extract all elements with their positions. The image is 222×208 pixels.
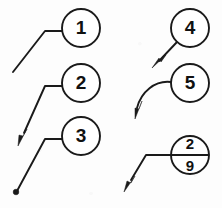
balloon-label-2: 2: [76, 72, 87, 93]
leader-line-6: [131, 155, 171, 180]
arrowhead-6: [124, 176, 135, 192]
leader-line-4: [159, 42, 177, 61]
figure-canvas: 1 2 3 4 5: [0, 0, 222, 208]
balloon-label-6-top: 2: [186, 135, 194, 152]
balloon-label-6-bottom: 9: [186, 157, 194, 174]
leader-line-3: [17, 139, 62, 191]
callout-5: 5: [135, 64, 209, 119]
balloon-label-1: 1: [76, 17, 87, 38]
dot-terminator-3: [13, 189, 19, 195]
callout-4: 4: [152, 9, 209, 68]
balloon-label-4: 4: [185, 17, 196, 38]
balloon-label-3: 3: [76, 125, 87, 146]
leader-line-1: [13, 31, 62, 72]
leader-line-figure: 1 2 3 4 5: [0, 0, 222, 208]
leader-line-2: [24, 86, 62, 133]
leader-line-5: [137, 82, 171, 108]
callout-1: 1: [13, 9, 100, 72]
callout-6: 2 9: [124, 135, 209, 192]
arrowhead-2: [18, 129, 27, 146]
balloon-label-5: 5: [185, 72, 196, 93]
arrowhead-4: [152, 55, 166, 68]
